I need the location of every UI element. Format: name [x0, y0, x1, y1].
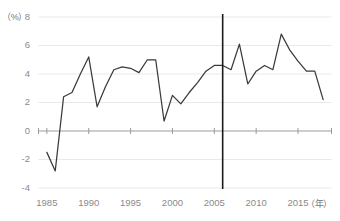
y-axis-tick--4: -4 — [8, 182, 30, 193]
line-chart: （%） （年） 86420-2-4 1985199019952000200520… — [0, 0, 340, 221]
y-axis-tick--2: -2 — [8, 153, 30, 164]
x-axis-tick-2005: 2005 — [194, 197, 234, 208]
y-axis-tick-4: 4 — [8, 68, 30, 79]
y-axis-tick-6: 6 — [8, 39, 30, 50]
x-axis-tick-1985: 1985 — [27, 197, 67, 208]
y-axis-tick-2: 2 — [8, 96, 30, 107]
x-axis-tick-2000: 2000 — [152, 197, 192, 208]
x-axis-tick-1990: 1990 — [69, 197, 109, 208]
x-axis-tick-2010: 2010 — [236, 197, 276, 208]
y-axis-tick-8: 8 — [8, 11, 30, 22]
x-axis-tick-2015: 2015 — [278, 197, 318, 208]
y-axis-tick-0: 0 — [8, 125, 30, 136]
x-axis-tick-1995: 1995 — [111, 197, 151, 208]
plot-area — [0, 0, 340, 221]
